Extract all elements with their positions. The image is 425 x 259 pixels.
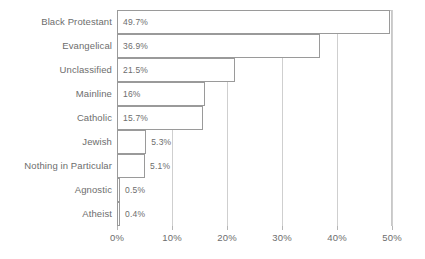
category-label: Atheist <box>82 202 112 226</box>
bar-value-label: 15.7% <box>123 106 148 130</box>
bar-row: 5.1% <box>117 154 392 178</box>
bar-row: 0.4% <box>117 202 392 226</box>
bar[interactable] <box>117 178 120 202</box>
bar-value-label: 21.5% <box>123 58 148 82</box>
x-tick-label: 40% <box>327 232 347 243</box>
bar-value-label: 36.9% <box>123 34 148 58</box>
bar-row: 36.9% <box>117 34 392 58</box>
category-label: Evangelical <box>62 34 112 58</box>
x-tick-label: 30% <box>272 232 292 243</box>
category-label: Catholic <box>77 106 112 130</box>
bar[interactable] <box>117 130 146 154</box>
category-label: Nothing in Particular <box>24 154 112 178</box>
category-label: Jewish <box>82 130 112 154</box>
x-tick-mark <box>227 226 228 230</box>
bar-row: 0.5% <box>117 178 392 202</box>
category-label: Mainline <box>76 82 112 106</box>
bar[interactable] <box>117 202 120 226</box>
x-tick-label: 0% <box>110 232 124 243</box>
bar[interactable] <box>117 10 390 34</box>
x-tick-mark <box>117 226 118 230</box>
bar-value-label: 16% <box>123 82 141 106</box>
gridline-50 <box>392 10 393 226</box>
x-tick-mark <box>392 226 393 230</box>
x-tick-label: 20% <box>217 232 237 243</box>
x-tick-mark <box>172 226 173 230</box>
bar[interactable] <box>117 154 145 178</box>
plot-area: 49.7%36.9%21.5%16%15.7%5.3%5.1%0.5%0.4% <box>117 10 392 226</box>
bar-value-label: 0.4% <box>125 202 145 226</box>
bar-value-label: 5.1% <box>150 154 170 178</box>
bar-row: 5.3% <box>117 130 392 154</box>
bar-value-label: 5.3% <box>151 130 171 154</box>
category-axis-labels: Black ProtestantEvangelicalUnclassifiedM… <box>0 10 112 226</box>
category-label: Unclassified <box>60 58 112 82</box>
bar-row: 15.7% <box>117 106 392 130</box>
bar-value-label: 0.5% <box>125 178 145 202</box>
x-tick-label: 50% <box>382 232 402 243</box>
x-tick-mark <box>282 226 283 230</box>
x-tick-label: 10% <box>162 232 182 243</box>
x-axis: 0%10%20%30%40%50% <box>117 226 392 256</box>
x-tick-mark <box>337 226 338 230</box>
bar-series: 49.7%36.9%21.5%16%15.7%5.3%5.1%0.5%0.4% <box>117 10 392 226</box>
category-label: Black Protestant <box>41 10 112 34</box>
bar-row: 16% <box>117 82 392 106</box>
bar-value-label: 49.7% <box>123 10 148 34</box>
bar-row: 21.5% <box>117 58 392 82</box>
category-label: Agnostic <box>75 178 112 202</box>
bar-chart: Black ProtestantEvangelicalUnclassifiedM… <box>0 0 425 259</box>
bar-row: 49.7% <box>117 10 392 34</box>
